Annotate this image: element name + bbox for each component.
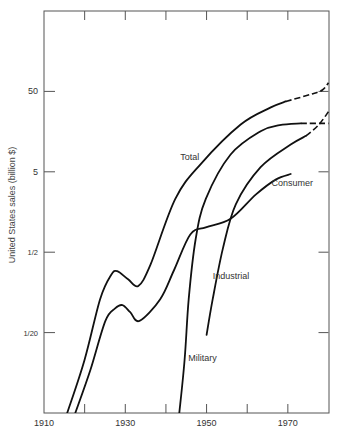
x-tick-label: 1970 — [278, 418, 298, 428]
y-tick-label: 5 — [33, 167, 38, 177]
y-tick-label: 1/2 — [28, 248, 38, 257]
chart: 1910193019501970 5051/21/20 TotalMilitar… — [0, 0, 338, 433]
series-line-industrial — [207, 136, 307, 335]
y-axis-title: United States sales (billion $) — [7, 147, 17, 264]
x-tick-label: 1930 — [115, 418, 135, 428]
y-tick-label: 1/20 — [23, 329, 38, 338]
series-label-consumer: Consumer — [272, 178, 314, 188]
series-layer — [67, 83, 328, 413]
series-label-military: Military — [188, 353, 217, 363]
series-projection-total — [286, 83, 329, 102]
series-line-total — [67, 101, 286, 413]
x-tick-label: 1910 — [34, 418, 54, 428]
series-projection-industrial — [306, 112, 328, 136]
y-tick-label: 50 — [28, 86, 38, 96]
series-label-total: Total — [180, 152, 199, 162]
x-tick-label: 1950 — [197, 418, 217, 428]
series-label-industrial: Industrial — [213, 271, 250, 281]
